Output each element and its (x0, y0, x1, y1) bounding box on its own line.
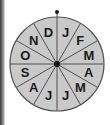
month-wheel-diagram: JFMAMJJASOND (0, 0, 110, 125)
month-label: N (29, 33, 38, 48)
month-label: D (44, 25, 53, 40)
month-label: M (75, 80, 86, 95)
month-label: A (84, 65, 94, 80)
month-label: M (83, 48, 94, 63)
month-label: S (21, 65, 30, 80)
month-label: F (76, 33, 84, 48)
month-label: J (45, 88, 52, 103)
month-label: J (62, 88, 69, 103)
hub-dot-icon (54, 61, 60, 67)
pointer-dot-icon (55, 10, 59, 14)
month-label: O (20, 48, 30, 63)
month-label: J (62, 25, 69, 40)
month-label: A (29, 80, 39, 95)
